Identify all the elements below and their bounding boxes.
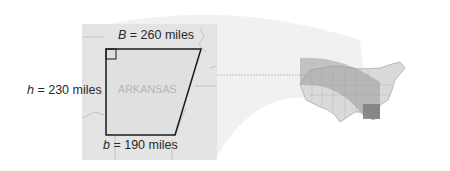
arkansas-highlight (363, 104, 380, 119)
var-b: b (103, 138, 110, 152)
label-height: h = 230 miles (27, 83, 102, 97)
arkansas-trapezoid-diagram: B = 260 miles h = 230 miles b = 190 mile… (0, 0, 450, 171)
var-h: h (27, 83, 34, 97)
label-top-base: B = 260 miles (118, 28, 194, 42)
label-bottom-base: b = 190 miles (103, 138, 178, 152)
state-name-label: ARKANSAS (118, 83, 177, 95)
